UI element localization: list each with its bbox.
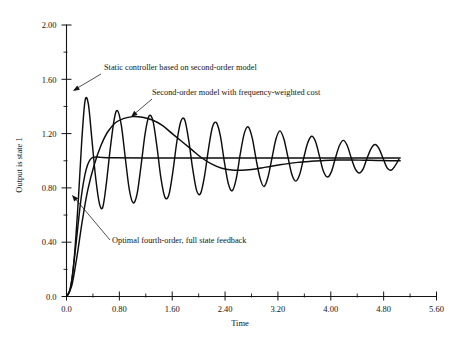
y-tick-label: 2.00 xyxy=(42,20,57,30)
annotation-frequency-weighted: Second-order model with frequency-weight… xyxy=(131,88,321,117)
x-tick-label: 0.0 xyxy=(61,304,72,314)
figure-panel: 0.00.801.602.403.204.004.805.60 0.00.400… xyxy=(0,0,459,344)
y-tick-labels: 0.00.400.801.201.602.00 xyxy=(42,20,57,302)
x-tick-label: 3.20 xyxy=(270,304,285,314)
annotation-text: Optimal fourth-order, full state feedbac… xyxy=(112,236,247,245)
series-line-1: Static controller based on second-order … xyxy=(67,98,399,297)
x-tick-label: 5.60 xyxy=(429,304,444,314)
y-tick-label: 0.80 xyxy=(42,183,57,193)
x-tick-label: 2.40 xyxy=(218,304,233,314)
annotation-text: Static controller based on second-order … xyxy=(104,63,257,72)
x-tick-label: 4.00 xyxy=(323,304,338,314)
x-axis-title: Time xyxy=(231,318,249,328)
y-tick-label: 0.40 xyxy=(42,237,57,247)
x-tick-label: 4.80 xyxy=(376,304,391,314)
line-chart: 0.00.801.602.403.204.004.805.60 0.00.400… xyxy=(0,0,459,344)
x-tick-labels: 0.00.801.602.403.204.004.805.60 xyxy=(61,304,444,314)
y-tick-label: 1.20 xyxy=(42,129,57,139)
x-tick-label: 0.80 xyxy=(112,304,127,314)
data-curves: Static controller based on second-order … xyxy=(67,98,401,297)
y-axis-title: Output is state 1 xyxy=(14,137,24,192)
x-tick-label: 1.60 xyxy=(165,304,180,314)
y-tick-label: 0.0 xyxy=(46,292,57,302)
annotation-static-controller: Static controller based on second-order … xyxy=(73,63,257,91)
series-line-3: Optimal fourth-order, full state feedbac… xyxy=(67,157,401,297)
annotation-optimal-fourth-order: Optimal fourth-order, full state feedbac… xyxy=(72,195,247,245)
series-line-2: Second-order model with frequency-weight… xyxy=(67,117,401,297)
annotation-arrowhead xyxy=(73,85,80,91)
annotation-text: Second-order model with frequency-weight… xyxy=(152,88,321,97)
y-tick-label: 1.60 xyxy=(42,75,57,85)
